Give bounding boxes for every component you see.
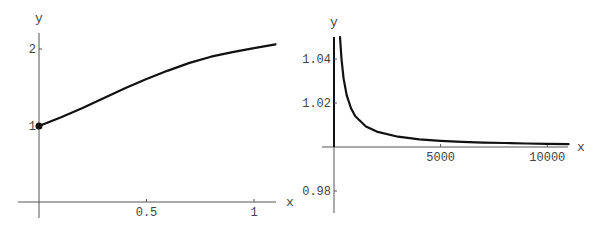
x-tick-label: 10000 xyxy=(529,151,565,165)
right-y-axis-label: y xyxy=(330,15,338,30)
right-curve xyxy=(340,37,569,144)
right-x-axis-label: x xyxy=(577,140,585,155)
left-y-ticks: 12 xyxy=(29,43,42,134)
start-point-marker xyxy=(36,123,43,130)
x-tick-label: 5000 xyxy=(426,151,455,165)
left-x-axis-label: x xyxy=(286,195,294,210)
y-tick-label: 1 xyxy=(29,120,36,134)
left-plot: 0.51 12 x y xyxy=(18,11,294,220)
left-curve xyxy=(39,44,276,126)
right-plot: 500010000 0.981.021.04 x y xyxy=(302,15,585,213)
y-tick-label: 1.02 xyxy=(302,97,331,111)
y-tick-label: 2 xyxy=(29,43,36,57)
x-tick-label: 1 xyxy=(250,206,257,220)
y-tick-label: 1.04 xyxy=(302,53,331,67)
left-y-axis-label: y xyxy=(35,11,43,26)
chart-canvas: 0.51 12 x y 500010000 0.981.021.04 x y xyxy=(0,0,601,228)
right-y-ticks: 0.981.021.04 xyxy=(302,53,337,199)
x-tick-label: 0.5 xyxy=(136,206,158,220)
y-tick-label: 0.98 xyxy=(302,185,331,199)
